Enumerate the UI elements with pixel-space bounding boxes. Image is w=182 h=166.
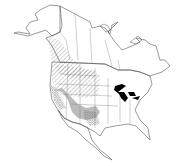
arctic-islands — [100, 24, 142, 44]
great-lakes — [114, 84, 140, 102]
alaska — [14, 5, 62, 36]
us-range-hatched — [52, 64, 100, 98]
north-america-range-map — [0, 0, 182, 166]
